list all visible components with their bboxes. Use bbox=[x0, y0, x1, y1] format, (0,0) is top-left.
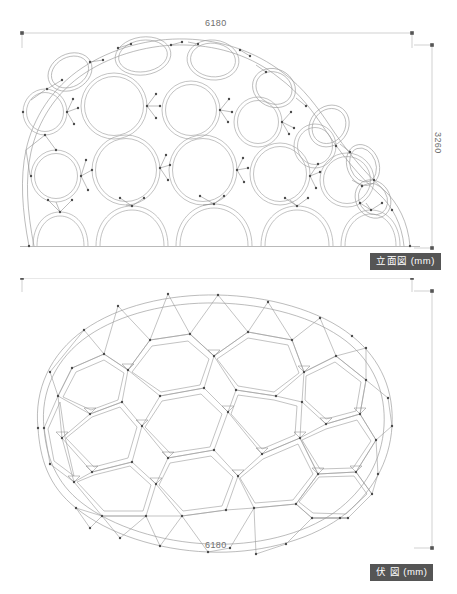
plan-view: 6180 4160 bbox=[0, 278, 457, 594]
plan-view-label: 伏 図 (mm) bbox=[370, 564, 433, 581]
elevation-height-dimension-text: 3260 bbox=[433, 132, 443, 154]
plan-nodes bbox=[37, 293, 393, 555]
elevation-dimension-lines bbox=[20, 31, 434, 250]
elevation-width-dimension-text: 6180 bbox=[205, 18, 227, 28]
elevation-view-label: 立面図 (mm) bbox=[370, 253, 441, 270]
elevation-outer-envelope bbox=[22, 39, 410, 246]
elevation-cell-row-1 bbox=[33, 204, 400, 246]
elevation-nodes bbox=[22, 41, 411, 247]
plan-drawing bbox=[0, 278, 457, 594]
drawing-sheet: 6180 3260 bbox=[0, 0, 457, 594]
plan-lattice-cells bbox=[44, 294, 392, 554]
elevation-view: 6180 3260 bbox=[0, 0, 457, 278]
plan-width-dimension-text: 6180 bbox=[205, 540, 227, 550]
elevation-cell-row-4 bbox=[41, 33, 385, 190]
elevation-drawing bbox=[0, 0, 457, 278]
plan-node-clusters bbox=[56, 350, 366, 484]
elevation-connectors bbox=[26, 42, 382, 212]
